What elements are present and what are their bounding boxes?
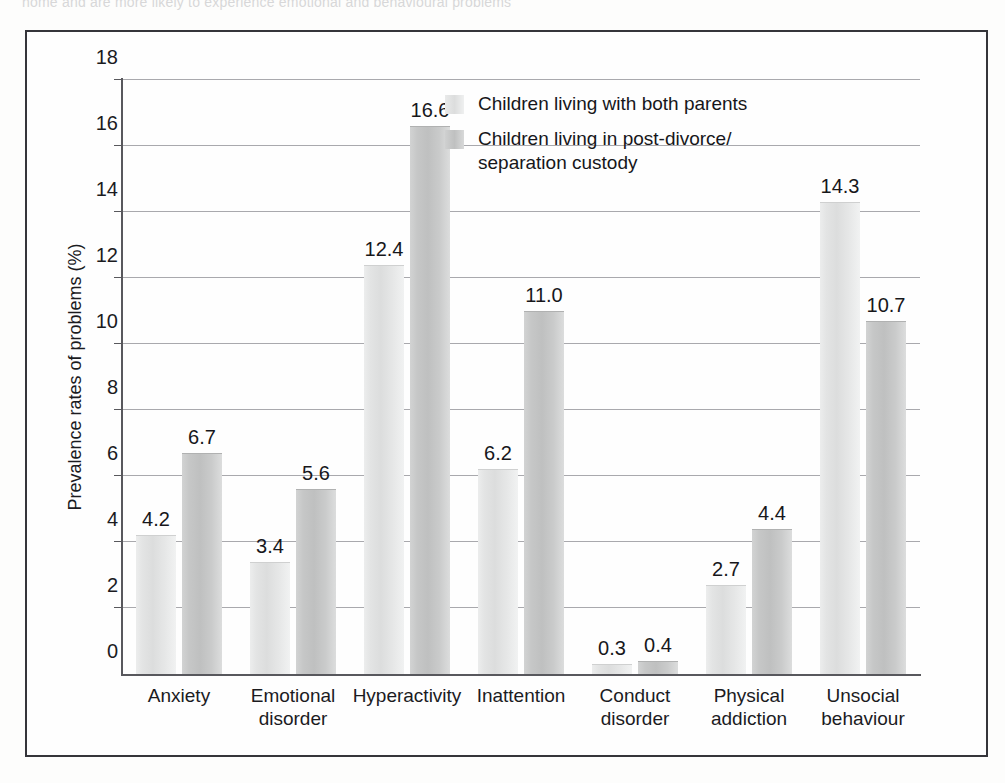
bar-value-label: 4.2	[142, 508, 170, 531]
y-tick-label: 8	[78, 376, 118, 399]
bar: 6.2	[478, 469, 518, 674]
bar-value-label: 0.3	[598, 637, 626, 660]
x-axis-line	[121, 674, 921, 676]
y-tick-label: 14	[78, 178, 118, 201]
y-axis-line	[121, 78, 123, 676]
y-tick-label: 18	[78, 46, 118, 69]
y-tick-label: 12	[78, 244, 118, 267]
gridline	[122, 211, 920, 212]
bar-value-label: 2.7	[712, 558, 740, 581]
bar: 16.6	[410, 126, 450, 674]
legend-item: Children living in post-divorce/ separat…	[445, 127, 875, 175]
x-category-label: Unsocial behaviour	[806, 684, 920, 730]
bar: 4.4	[752, 529, 792, 674]
legend-swatch	[445, 130, 464, 149]
gridline	[122, 343, 920, 344]
x-category-label: Conduct disorder	[578, 684, 692, 730]
gridline	[122, 79, 920, 80]
bar: 4.2	[136, 535, 176, 674]
y-tick-label: 10	[78, 310, 118, 333]
bar-value-label: 6.2	[484, 442, 512, 465]
bar: 6.7	[182, 453, 222, 674]
gridline	[122, 277, 920, 278]
x-category-label: Anxiety	[122, 684, 236, 707]
legend-swatch	[445, 95, 464, 114]
bar-value-label: 16.6	[411, 99, 450, 122]
gridline	[122, 475, 920, 476]
legend: Children living with both parentsChildre…	[445, 92, 875, 186]
bar-value-label: 10.7	[867, 294, 906, 317]
figure-frame: Prevalence rates of problems (%) 0246810…	[25, 30, 988, 757]
y-tick-label: 4	[78, 508, 118, 531]
bar: 0.4	[638, 661, 678, 674]
y-tick-label: 16	[78, 112, 118, 135]
y-tick-label: 2	[78, 574, 118, 597]
bar: 11.0	[524, 311, 564, 674]
y-tick-label: 0	[78, 640, 118, 663]
bar: 10.7	[866, 321, 906, 674]
bar: 14.3	[820, 202, 860, 674]
x-category-label: Hyperactivity	[350, 684, 464, 707]
bar-value-label: 12.4	[365, 238, 404, 261]
bar: 12.4	[364, 265, 404, 674]
legend-label: Children living with both parents	[478, 92, 747, 116]
bar-value-label: 4.4	[758, 502, 786, 525]
x-category-label: Emotional disorder	[236, 684, 350, 730]
x-category-label: Physical addiction	[692, 684, 806, 730]
bar: 5.6	[296, 489, 336, 674]
legend-label: Children living in post-divorce/ separat…	[478, 127, 731, 175]
bar: 2.7	[706, 585, 746, 674]
bar: 3.4	[250, 562, 290, 674]
gridline	[122, 541, 920, 542]
x-category-label: Inattention	[464, 684, 578, 707]
bar-value-label: 0.4	[644, 634, 672, 657]
bar-value-label: 5.6	[302, 462, 330, 485]
legend-item: Children living with both parents	[445, 92, 875, 116]
cropped-page-text: home and are more likely to experience e…	[22, 0, 722, 10]
bar-value-label: 6.7	[188, 426, 216, 449]
bar: 0.3	[592, 664, 632, 674]
bar-value-label: 3.4	[256, 535, 284, 558]
gridline	[122, 409, 920, 410]
y-tick-label: 6	[78, 442, 118, 465]
chart-page: home and are more likely to experience e…	[0, 0, 1005, 783]
gridline	[122, 607, 920, 608]
bar-value-label: 11.0	[525, 284, 562, 307]
